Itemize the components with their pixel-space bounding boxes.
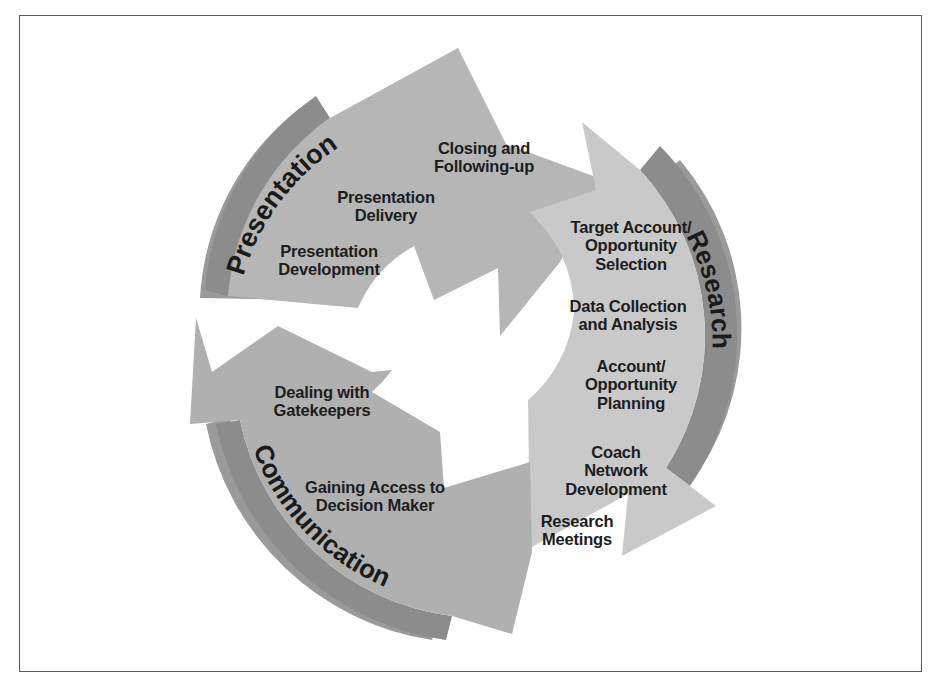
presentation-item-presentation-development: Presentation Development: [236, 242, 422, 279]
cycle-diagram: Presentation Research Communication Clos…: [0, 0, 944, 686]
research-item-target-account-opportunity-selection: Target Account/ Opportunity Selection: [540, 218, 722, 273]
page-root: Presentation Research Communication Clos…: [0, 0, 944, 686]
research-item-data-collection-and-analysis: Data Collection and Analysis: [540, 297, 716, 334]
presentation-item-presentation-delivery: Presentation Delivery: [302, 188, 470, 225]
research-item-account-opportunity-planning: Account/ Opportunity Planning: [548, 357, 714, 412]
research-item-coach-network-development: Coach Network Development: [528, 443, 704, 498]
communication-item-dealing-with-gatekeepers: Dealing with Gatekeepers: [242, 383, 402, 420]
cycle-diagram-svg: Presentation Research Communication: [0, 0, 944, 686]
research-item-research-meetings: Research Meetings: [502, 512, 652, 549]
communication-item-gaining-access-to-decision-maker: Gaining Access to Decision Maker: [280, 478, 470, 515]
presentation-item-closing-and-following-up: Closing and Following-up: [404, 139, 564, 176]
